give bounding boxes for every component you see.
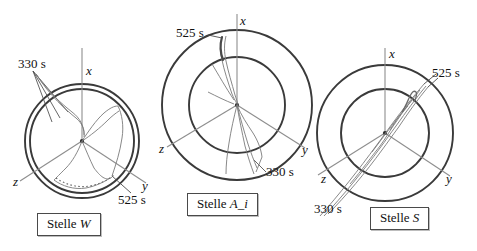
- caption-prefix: Stelle: [197, 196, 230, 211]
- axis-label-y: y: [446, 172, 452, 185]
- caption-stelle-a-i: Stelle A_i: [187, 193, 258, 216]
- trace-hook-525: [221, 37, 223, 60]
- annotation-330s: 330 s: [314, 202, 342, 215]
- caption-stelle-w: Stelle W: [37, 213, 101, 236]
- axis-y: [385, 133, 450, 176]
- panel-stelle-w: x y z 330 s 525 s Stelle W: [0, 0, 160, 251]
- axis-label-x: x: [240, 14, 246, 27]
- annotation-330s: 330 s: [18, 57, 46, 70]
- axis-z: [318, 133, 385, 175]
- panel-stelle-s: x y z 525 s 330 s Stelle S: [310, 0, 477, 251]
- axis-label-y: y: [142, 179, 148, 192]
- axis-label-z: z: [159, 142, 164, 155]
- annotation-525s: 525 s: [432, 66, 460, 79]
- caption-symbol: A_i: [230, 196, 248, 211]
- annotation-330s: 330 s: [266, 165, 294, 178]
- axis-label-y: y: [302, 143, 308, 156]
- figure-root: x y z 330 s 525 s Stelle W: [0, 0, 477, 251]
- axis-label-x: x: [86, 64, 92, 77]
- caption-prefix: Stelle: [47, 216, 80, 231]
- caption-prefix: Stelle: [380, 210, 413, 225]
- axis-label-z: z: [321, 172, 326, 185]
- panel-stelle-a-i: x y z 525 s 330 s Stelle A_i: [150, 0, 330, 251]
- axis-z: [167, 105, 237, 147]
- caption-stelle-s: Stelle S: [370, 207, 429, 230]
- axis-label-x: x: [389, 47, 395, 60]
- caption-symbol: S: [413, 210, 420, 225]
- leader-line-525: [208, 35, 222, 38]
- annotation-525s: 525 s: [176, 26, 204, 39]
- axis-label-z: z: [13, 175, 18, 188]
- caption-symbol: W: [80, 216, 91, 231]
- annotation-525s: 525 s: [118, 193, 146, 206]
- leader-line-525: [112, 176, 131, 193]
